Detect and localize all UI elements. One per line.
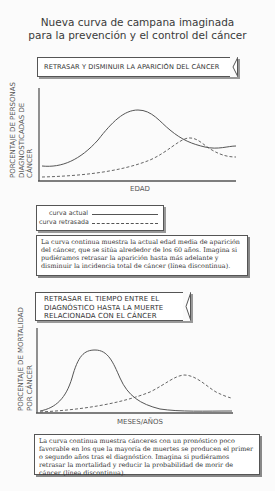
chart2-ylabel-line-1: PORCENTAJE DE MORTALIDAD (17, 307, 26, 411)
legend-solid-line-icon (92, 214, 158, 215)
chart1-caption: La curva continua muestra la actual edad… (36, 235, 248, 276)
chart2-actual-curve (40, 350, 232, 411)
section2-banner-line-1: RETRASAR EL TIEMPO ENTRE EL (44, 295, 190, 304)
section2-banner: RETRASAR EL TIEMPO ENTRE EL DIAGNÓSTICO … (35, 292, 191, 321)
chart2-axes (36, 328, 233, 413)
chart1-x-axis-label: EDAD (115, 185, 165, 193)
chart2-ylabel-line-2: POR CÁNCER (26, 307, 35, 411)
chart2-caption: La curva continua muestra cánceres con u… (34, 434, 260, 475)
chart1-legend: curva actual curva retrasada (36, 205, 164, 231)
banner-notch-icon (183, 292, 191, 321)
legend-item-actual: curva actual (37, 209, 163, 217)
chart2-y-axis-label: PORCENTAJE DE MORTALIDAD POR CÁNCER (17, 307, 34, 411)
legend-item-delayed: curva retrasada (37, 218, 163, 226)
chart1-delayed-curve (42, 138, 236, 177)
chart2-x-axis-label: MESES/AÑOS (100, 418, 180, 426)
chart1-actual-curve (42, 110, 236, 166)
legend-label-delayed: curva retrasada (39, 218, 89, 225)
legend-dashed-line-icon (92, 223, 158, 224)
chart1-axes (38, 88, 236, 181)
section2-banner-line-3: RELACIONADA CON EL CÁNCER (44, 312, 190, 321)
section2-banner-line-2: DIAGNÓSTICO HASTA LA MUERTE (44, 304, 190, 313)
chart2-delayed-curve (40, 375, 231, 412)
legend-label-actual: curva actual (49, 209, 88, 216)
